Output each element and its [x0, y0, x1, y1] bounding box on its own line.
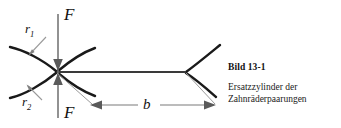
dimension-extension-left [57, 73, 92, 104]
caption-title: Bild 13-1 [228, 62, 340, 73]
curve-right-lower [186, 73, 216, 97]
caption-line-1: Ersatzzylinder der [228, 82, 340, 94]
force-label-bottom: F [64, 104, 74, 121]
right-cylinder-profiles [186, 45, 220, 97]
dimension-arrowhead-left [90, 101, 102, 110]
force-label-top: F [64, 6, 74, 23]
curve-lower-left [10, 73, 56, 98]
dimension-extension-right [186, 73, 215, 104]
radius-1-label: r1 [25, 22, 34, 38]
caption-body: Ersatzzylinder der Zahnräderpaarungen [228, 82, 340, 105]
curve-lower-right [58, 73, 95, 96]
figure-caption: Bild 13-1 Ersatzzylinder der Zahnräderpa… [228, 62, 340, 105]
radius-1-subscript: 1 [30, 29, 34, 39]
width-dimension-line [90, 101, 216, 110]
dimension-arrowhead-right [204, 101, 216, 110]
radius-2-subscript: 2 [27, 102, 31, 112]
caption-line-2: Zahnräderpaarungen [228, 94, 340, 106]
radius-2-label: r2 [22, 95, 31, 111]
width-label: b [143, 97, 151, 112]
radius-1-leader [29, 37, 47, 56]
curve-right-upper [186, 45, 220, 72]
figure-container: F F r1 r2 b Bild 13-1 Ersatzzylinder der… [0, 0, 341, 128]
curve-upper-right [58, 48, 95, 71]
